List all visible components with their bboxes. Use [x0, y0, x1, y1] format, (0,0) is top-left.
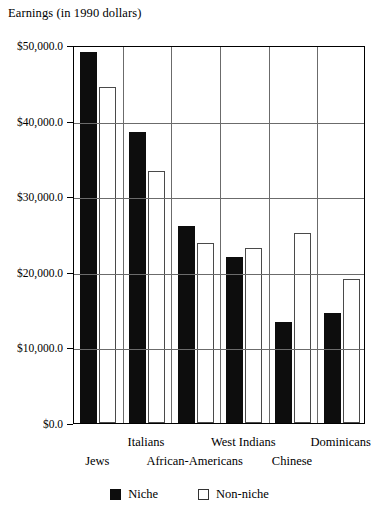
group-separator: [171, 47, 172, 423]
gridline: [74, 198, 364, 199]
bar-african-americans-niche: [178, 226, 195, 423]
bar-italians-niche: [129, 132, 146, 423]
bar-jews-non-niche: [99, 87, 116, 423]
filled-square-icon: [110, 489, 121, 500]
y-tick-label: $20,000.0: [17, 267, 63, 279]
legend-label: Niche: [128, 487, 158, 502]
group-separator: [220, 47, 221, 423]
bar-west-indians-niche: [226, 257, 243, 423]
legend-item-non-niche: Non-niche: [198, 487, 269, 502]
bars-layer: [74, 47, 364, 423]
bar-italians-non-niche: [148, 171, 165, 423]
y-tick-label: $40,000.0: [17, 116, 63, 128]
bar-dominicans-non-niche: [343, 279, 360, 423]
bar-dominicans-niche: [324, 313, 341, 423]
group-separator: [123, 47, 124, 423]
bar-chinese-niche: [275, 322, 292, 423]
x-axis-label-italians: Italians: [128, 435, 165, 450]
group-separator: [317, 47, 318, 423]
hollow-square-icon: [198, 489, 209, 500]
chart-legend: NicheNon-niche: [0, 482, 379, 506]
plot-area: [73, 46, 365, 424]
x-axis-label-west-indians: West Indians: [211, 435, 276, 450]
bar-chinese-non-niche: [294, 233, 311, 423]
y-tick-label: $50,000.0: [17, 40, 63, 52]
y-tick-label: $30,000.0: [17, 191, 63, 203]
x-axis-labels: JewsItaliansAfrican-AmericansWest Indian…: [0, 424, 379, 476]
x-axis-label-african-americans: African-Americans: [146, 454, 242, 469]
x-axis-label-chinese: Chinese: [272, 454, 312, 469]
bar-jews-niche: [80, 52, 97, 423]
y-tick-label: $10,000.0: [17, 342, 63, 354]
gridline: [74, 123, 364, 124]
group-separator: [269, 47, 270, 423]
earnings-bar-chart: Earnings (in 1990 dollars) $0.0$10,000.0…: [0, 0, 379, 515]
gridline: [74, 349, 364, 350]
bar-african-americans-non-niche: [197, 243, 214, 423]
x-axis-label-dominicans: Dominicans: [310, 435, 370, 450]
gridline: [74, 274, 364, 275]
x-axis-label-jews: Jews: [85, 454, 109, 469]
legend-item-niche: Niche: [110, 487, 158, 502]
legend-label: Non-niche: [216, 487, 269, 502]
